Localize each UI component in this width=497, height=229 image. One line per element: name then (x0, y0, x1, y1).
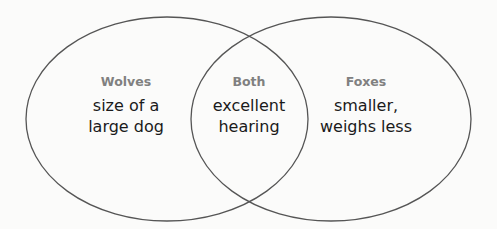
both-title: Both (213, 74, 286, 90)
wolves-title: Wolves (88, 74, 164, 90)
region-both: Both excellent hearing (213, 74, 286, 137)
wolves-fact: size of a large dog (88, 95, 164, 137)
foxes-title: Foxes (320, 74, 412, 90)
region-wolves: Wolves size of a large dog (88, 74, 164, 137)
region-foxes: Foxes smaller, weighs less (320, 74, 412, 137)
foxes-fact: smaller, weighs less (320, 95, 412, 137)
both-fact: excellent hearing (213, 95, 286, 137)
